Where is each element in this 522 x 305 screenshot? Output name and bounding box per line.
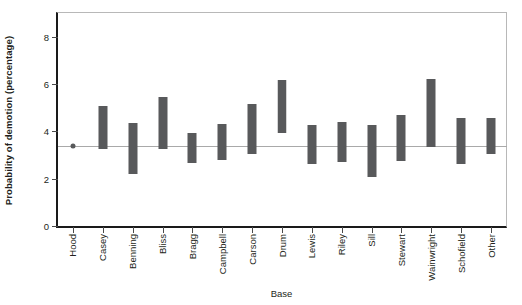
range-bar xyxy=(457,118,466,164)
range-bar xyxy=(158,97,167,149)
y-tick-label: 8 xyxy=(44,31,49,42)
reference-point-marker xyxy=(70,143,75,148)
plot-area: 02468 xyxy=(56,12,507,228)
x-axis-title: Base xyxy=(56,288,507,299)
range-bar xyxy=(98,106,107,149)
x-axis-label-text: Sill xyxy=(366,234,377,247)
y-tick-mark xyxy=(52,37,58,38)
x-axis-label-text: Schofield xyxy=(455,234,466,273)
x-axis-label-text: Bliss xyxy=(157,234,168,254)
reference-line xyxy=(58,146,507,147)
range-bar xyxy=(427,79,436,146)
range-bar xyxy=(397,115,406,161)
x-axis-label-text: Other xyxy=(485,234,496,258)
x-axis-label-text: Casey xyxy=(97,234,108,261)
x-axis-label-text: Campbell xyxy=(216,234,227,274)
range-bar xyxy=(337,122,346,162)
range-bar xyxy=(307,125,316,164)
range-bar xyxy=(218,124,227,160)
y-tick-mark xyxy=(52,131,58,132)
x-axis-label-text: Drum xyxy=(276,234,287,257)
y-tick-label: 4 xyxy=(44,126,49,137)
x-axis-label-text: Lewis xyxy=(306,234,317,258)
range-bar xyxy=(278,80,287,132)
x-axis-label-text: Riley xyxy=(336,234,347,255)
x-axis-label-text: Benning xyxy=(127,234,138,269)
plot-inner: 02468 xyxy=(58,13,506,226)
y-tick-label: 6 xyxy=(44,79,49,90)
x-axis-label-text: Hood xyxy=(67,234,78,257)
y-tick-label: 0 xyxy=(44,221,49,232)
range-bar xyxy=(128,123,137,174)
y-axis-title-text: Probability of demotion (percentage) xyxy=(4,35,15,204)
range-bar xyxy=(188,133,197,164)
range-bar xyxy=(487,118,496,154)
range-bar xyxy=(248,104,257,154)
y-tick-mark xyxy=(52,226,58,227)
range-bar xyxy=(367,125,376,177)
chart-figure: Probability of demotion (percentage) 024… xyxy=(0,0,522,305)
x-axis-labels: HoodCaseyBenningBlissBraggCampbellCarson… xyxy=(56,232,507,290)
x-axis-label-text: Bragg xyxy=(186,234,197,259)
x-axis-label-text: Carson xyxy=(246,234,257,265)
x-axis-label-text: Stewart xyxy=(395,234,406,266)
x-axis-label-text: Wainwright xyxy=(425,234,436,281)
y-tick-mark xyxy=(52,179,58,180)
y-axis-title: Probability of demotion (percentage) xyxy=(0,0,18,240)
y-tick-mark xyxy=(52,84,58,85)
y-tick-label: 2 xyxy=(44,173,49,184)
